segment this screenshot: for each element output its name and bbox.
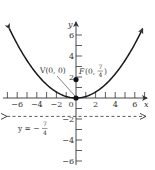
x-tick-label: 6 bbox=[132, 100, 137, 109]
focus-label: F (0, 7 4 ) bbox=[78, 63, 107, 78]
y-tick-label: −4 bbox=[62, 136, 74, 145]
focus-label-open: (0, bbox=[85, 67, 95, 76]
focus-label-denominator: 4 bbox=[99, 71, 103, 78]
x-tick-label: 4 bbox=[113, 100, 118, 109]
x-tick-label: 2 bbox=[93, 100, 98, 109]
directrix-label-prefix: y = − bbox=[17, 124, 40, 133]
vertex-label: V(0, 0) bbox=[39, 66, 66, 75]
directrix-label: y = − 7 4 bbox=[17, 120, 48, 136]
focus-point bbox=[73, 77, 78, 82]
x-tick-label: −4 bbox=[31, 100, 43, 109]
y-tick-label: 4 bbox=[69, 52, 74, 61]
x-axis: −6−4−20246 bbox=[3, 92, 147, 109]
x-axis-label: x bbox=[144, 100, 149, 109]
vertex-point bbox=[73, 95, 78, 100]
focus-label-numerator: 7 bbox=[99, 63, 103, 70]
y-tick-label: 6 bbox=[69, 31, 74, 40]
x-tick-label: −2 bbox=[51, 100, 63, 109]
chart-canvas: −6−4−20246 −6−4−2246 x y V(0, 0) F (0, 7… bbox=[0, 0, 155, 170]
x-tick-label: −6 bbox=[11, 100, 23, 109]
focus-label-prefix: F bbox=[78, 67, 85, 76]
y-tick-label: 2 bbox=[69, 73, 74, 82]
y-axis-label: y bbox=[67, 20, 73, 29]
parabola-figure: −6−4−20246 −6−4−2246 x y V(0, 0) F (0, 7… bbox=[0, 0, 155, 170]
y-tick-label: −6 bbox=[62, 157, 74, 166]
focus-label-close: ) bbox=[104, 67, 107, 76]
directrix-label-numerator: 7 bbox=[43, 120, 47, 127]
x-tick-label: 0 bbox=[68, 100, 73, 109]
directrix-label-denominator: 4 bbox=[43, 129, 47, 136]
y-axis: −6−4−2246 bbox=[62, 22, 82, 166]
